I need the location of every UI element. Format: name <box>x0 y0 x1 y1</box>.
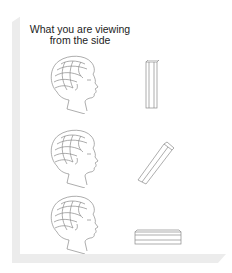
woman-profile-head-icon <box>47 54 103 114</box>
woman-profile-head-icon <box>47 194 103 254</box>
horizontal-bar-icon <box>133 228 183 246</box>
diagram-title: What you are viewing from the side <box>24 24 136 46</box>
tilted-bar-icon <box>134 140 176 186</box>
card-shadow-bottom <box>12 254 226 263</box>
title-line-2: from the side <box>24 35 136 46</box>
woman-profile-head-icon <box>47 128 103 188</box>
vertical-bar-icon <box>143 60 161 110</box>
